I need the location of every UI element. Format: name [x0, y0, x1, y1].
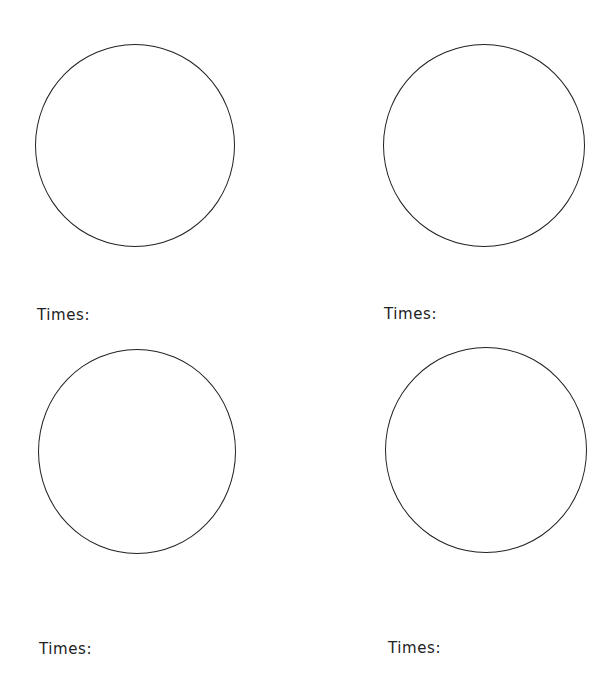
- times-label-bottom-right: Times:: [388, 641, 441, 656]
- times-label-bottom-left: Times:: [39, 642, 92, 657]
- times-label-top-left: Times:: [37, 308, 90, 323]
- circle-top-right: [383, 44, 585, 247]
- circle-bottom-right: [385, 347, 587, 553]
- circle-bottom-left: [38, 349, 236, 554]
- circle-top-left: [35, 44, 235, 247]
- times-label-top-right: Times:: [384, 307, 437, 322]
